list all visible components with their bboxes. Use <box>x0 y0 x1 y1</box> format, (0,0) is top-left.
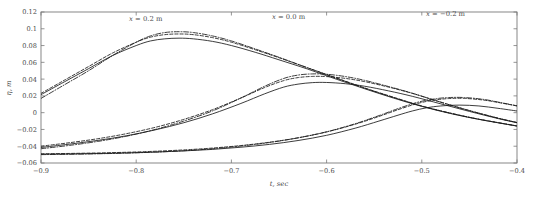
x-tick-label: −0.6 <box>319 167 335 175</box>
annotation-label-0: x = 0.2 m <box>129 15 163 23</box>
x-tick-label: −0.7 <box>223 167 239 175</box>
y-axis-ticks <box>41 12 517 163</box>
y-tick-label: 0.08 <box>22 42 37 50</box>
annotation-label-2: x = −0.2 m <box>426 10 466 18</box>
y-tick-label: 0.04 <box>22 76 37 84</box>
y-tick-label: 0.1 <box>27 25 38 33</box>
y-tick-label: 0.06 <box>22 59 37 67</box>
curve-x-0-0-m-solid <box>41 82 517 147</box>
annotation-label-1: x = 0.0 m <box>272 13 306 21</box>
x-axis-title: t, sec <box>270 180 289 188</box>
y-axis-title: η, m <box>5 81 13 96</box>
curves-clipped <box>41 32 517 155</box>
plot-frame <box>41 12 517 163</box>
y-tick-label: 0 <box>33 109 37 117</box>
curve-x-0-2-m-dashed <box>41 98 517 154</box>
wave-elevation-chart-figure: −0.9−0.8−0.7−0.6−0.5−0.4 0.120.10.080.06… <box>0 0 534 198</box>
x-tick-label: −0.8 <box>128 167 144 175</box>
x-tick-label: −0.9 <box>33 167 49 175</box>
y-tick-label: 0.02 <box>22 92 37 100</box>
y-tick-label: −0.06 <box>17 159 37 167</box>
x-axis-ticks <box>41 12 517 163</box>
y-tick-label: 0.12 <box>22 8 37 16</box>
y-axis-tick-labels: 0.120.10.080.060.040.020−0.02−0.04−0.06 <box>17 8 37 167</box>
curve-x-0-0-m-dashdot <box>41 74 517 149</box>
x-tick-label: −0.4 <box>509 167 525 175</box>
y-tick-label: −0.02 <box>17 126 37 134</box>
x-axis-tick-labels: −0.9−0.8−0.7−0.6−0.5−0.4 <box>33 167 525 175</box>
y-tick-label: −0.04 <box>17 143 37 151</box>
chart-canvas: −0.9−0.8−0.7−0.6−0.5−0.4 0.120.10.080.06… <box>0 0 534 198</box>
curve-x-0-2-m-dashdot <box>41 32 517 126</box>
x-tick-label: −0.5 <box>414 167 430 175</box>
data-curves <box>41 32 517 155</box>
curve-x-0-0-m-dashed <box>41 76 517 146</box>
